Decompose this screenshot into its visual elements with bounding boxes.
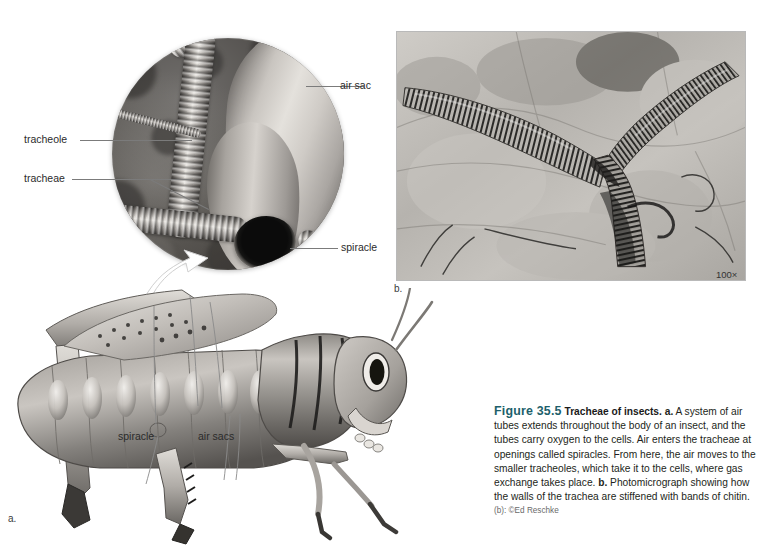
leader-line-tracheole xyxy=(80,140,192,141)
panel-b-photomicrograph xyxy=(396,31,746,281)
caption-marker-a: a. xyxy=(665,406,674,417)
figure-caption: Figure 35.5 Tracheae of insects. a. A sy… xyxy=(494,404,756,504)
grasshopper-illustration xyxy=(4,288,434,546)
label-spiracle-inset: spiracle xyxy=(341,241,377,253)
label-spiracle-insect: spiracle xyxy=(118,430,154,442)
label-air-sac: air sac xyxy=(340,79,371,91)
leader-line-spiracle xyxy=(290,248,338,249)
panel-b-label: b. xyxy=(394,283,402,294)
figure-title: Tracheae of insects. xyxy=(564,406,661,417)
panel-a-illustration: air sac tracheole tracheae spiracle xyxy=(0,16,440,543)
magnification-label: 100× xyxy=(716,269,737,280)
caption-text-a: A system of air tubes extends throughout… xyxy=(494,406,756,488)
micrograph-image xyxy=(397,32,745,281)
label-tracheae: tracheae xyxy=(24,172,65,184)
label-air-sacs-insect: air sacs xyxy=(198,430,234,442)
panel-a-label: a. xyxy=(8,513,16,524)
leader-line-tracheae xyxy=(72,179,192,180)
figure-number: Figure 35.5 xyxy=(494,404,562,418)
label-tracheole: tracheole xyxy=(24,133,67,145)
figure-credit: (b): ©Ed Reschke xyxy=(494,506,559,515)
page-header-strip xyxy=(0,0,769,16)
caption-marker-b: b. xyxy=(598,477,607,488)
